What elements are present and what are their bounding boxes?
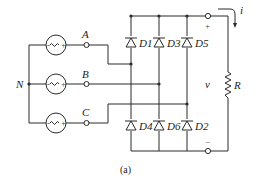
resistor-icon: [225, 72, 231, 98]
svg-text:D5: D5: [194, 37, 209, 49]
svg-text:D1: D1: [138, 37, 152, 49]
svg-text:D4: D4: [138, 120, 153, 132]
current-label: i: [240, 4, 243, 16]
terminal-c: [84, 121, 89, 126]
neutral-label: N: [15, 78, 24, 90]
output-terminal-negative: [205, 148, 210, 153]
rectifier-circuit-diagram: N -+ A -+ B -+ C: [0, 0, 256, 184]
resistor-r: R: [225, 72, 241, 98]
phase-b-source: -+ B: [29, 68, 161, 94]
svg-text:R: R: [233, 79, 241, 91]
svg-text:-: -: [47, 79, 50, 89]
phase-b-label: B: [82, 68, 89, 80]
terminal-a: [84, 43, 89, 48]
svg-text:+: +: [61, 40, 66, 50]
phase-a-source: -+ A: [29, 28, 133, 66]
output-terminal-positive: [205, 13, 210, 18]
neutral-bus: N: [15, 45, 31, 123]
figure-caption: (a): [120, 164, 131, 176]
svg-text:+: +: [61, 118, 66, 128]
diode-d2: D2: [181, 119, 209, 132]
svg-text:D3: D3: [166, 37, 181, 49]
arrow-down-icon: [233, 23, 237, 28]
phase-c-label: C: [82, 106, 90, 118]
minus-sign: −: [205, 137, 210, 147]
plus-sign: +: [205, 21, 210, 31]
svg-text:-: -: [47, 118, 50, 128]
diode-d5: D5: [181, 36, 209, 49]
svg-text:D2: D2: [194, 120, 209, 132]
svg-text:-: -: [47, 40, 50, 50]
output-voltage-label: v: [205, 78, 210, 90]
svg-text:D6: D6: [166, 120, 181, 132]
diode-d1: D1: [125, 36, 152, 49]
phase-a-label: A: [81, 28, 89, 40]
svg-text:+: +: [61, 79, 66, 89]
diode-d6: D6: [153, 119, 181, 132]
diode-d3: D3: [153, 36, 181, 49]
terminal-b: [84, 82, 89, 87]
diode-d4: D4: [125, 119, 153, 132]
